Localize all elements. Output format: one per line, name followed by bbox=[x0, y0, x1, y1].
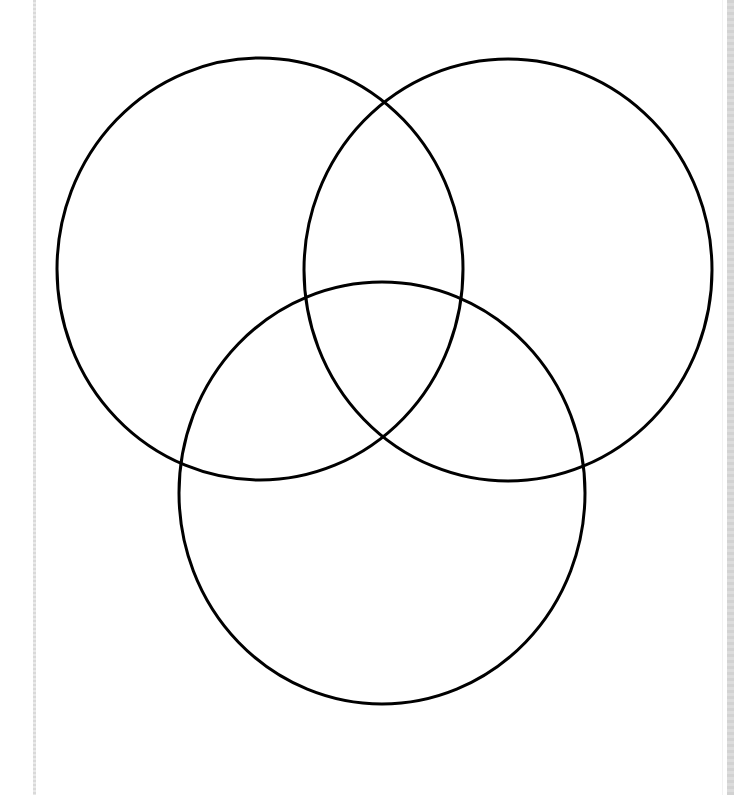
venn-sets-group bbox=[57, 58, 712, 704]
circle-bottom bbox=[179, 282, 585, 704]
circle-top-right bbox=[304, 59, 712, 481]
venn-diagram bbox=[0, 0, 734, 795]
circle-top-left bbox=[57, 58, 463, 480]
